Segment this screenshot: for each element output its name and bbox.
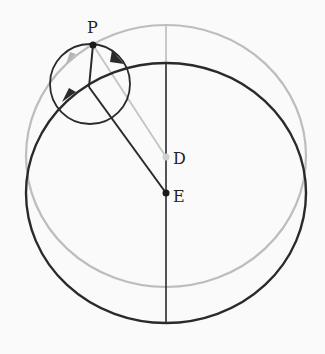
label-d: D	[173, 149, 186, 168]
line-p-to-hub	[89, 45, 93, 87]
epicycle-diagram: P D E	[0, 0, 325, 354]
point-e	[163, 190, 170, 197]
point-d	[163, 154, 170, 161]
label-e: E	[173, 187, 185, 206]
point-p	[90, 42, 97, 49]
label-p: P	[87, 18, 98, 37]
arrow-epicycle-clockwise-icon	[110, 50, 124, 64]
line-p-to-d	[93, 45, 166, 157]
